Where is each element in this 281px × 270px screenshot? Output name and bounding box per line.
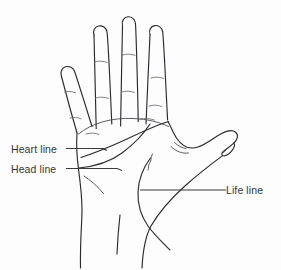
middle-finger-inner-edge (121, 26, 123, 127)
ring-finger-crease-lower (96, 97, 109, 98)
thumb-inner-edge (142, 156, 223, 268)
ring-finger-crease-upper (95, 61, 107, 62)
thumb-tip-outline (222, 143, 235, 156)
head-line-leader-tip (117, 169, 122, 171)
index-finger-crease-upper (151, 77, 164, 78)
palm-knuckle-crease (86, 133, 99, 134)
index-finger-crease-lower (149, 105, 162, 106)
middle-finger-crease-lower (122, 91, 135, 92)
palm-lower-crease (84, 176, 104, 194)
index-finger-inner-edge (146, 35, 150, 125)
ring-finger-inner-edge (94, 35, 96, 129)
palm-left-edge (77, 133, 82, 268)
wrist-right-contour (117, 215, 120, 254)
hand-diagram (0, 0, 281, 270)
life-line-label: Life line (226, 184, 263, 196)
little-finger-inner-edge (62, 77, 78, 134)
heart-line-crease (81, 122, 169, 158)
thumb-nail-crease (223, 145, 231, 153)
heart-line-label: Heart line (11, 143, 57, 155)
little-finger-crease-lower (70, 117, 81, 118)
middle-finger-outline (122, 17, 138, 122)
head-line-crease (79, 124, 151, 168)
thumb-base-crease (171, 147, 189, 154)
life-line-crease (138, 158, 170, 250)
life-line-fork (148, 154, 153, 170)
palm-lines-figure: Heart line Head line Life line (0, 0, 281, 270)
head-line-label: Head line (11, 163, 56, 175)
middle-finger-crease-upper (123, 54, 136, 55)
thumb-outer-edge (168, 122, 237, 148)
